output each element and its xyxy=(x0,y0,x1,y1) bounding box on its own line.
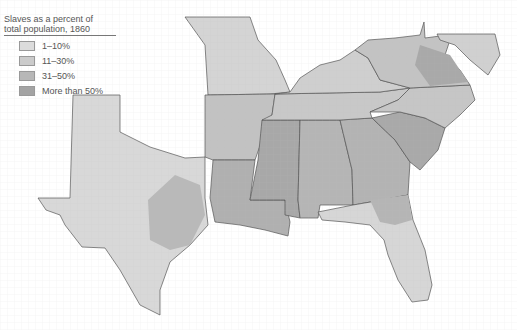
legend-label: 11–30% xyxy=(42,56,74,66)
legend-label: More than 50% xyxy=(42,86,103,96)
legend-title: Slaves as a percent of total population,… xyxy=(4,14,116,36)
legend-swatch xyxy=(19,86,35,96)
legend-swatch xyxy=(19,41,35,51)
legend-label: 1–10% xyxy=(42,41,70,51)
legend-swatch xyxy=(19,71,35,81)
legend-title-line2: total population, 1860 xyxy=(4,24,116,34)
legend-item-31-50: 31–50% xyxy=(4,70,116,81)
legend-item-1-10: 1–10% xyxy=(4,40,116,51)
legend-item-11-30: 11–30% xyxy=(4,55,116,66)
legend-item-over-50: More than 50% xyxy=(4,85,116,96)
legend-swatch xyxy=(19,56,35,66)
legend-label: 31–50% xyxy=(42,71,75,81)
legend-title-line1: Slaves as a percent of xyxy=(4,14,116,24)
map-legend: Slaves as a percent of total population,… xyxy=(4,14,116,96)
